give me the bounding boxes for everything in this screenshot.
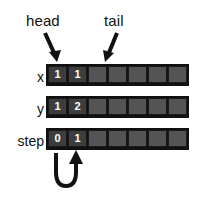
cell-step-0[interactable]: 0 (48, 130, 67, 147)
array-row-step: 0 1 (46, 128, 189, 150)
step-loop-arrow-icon (56, 150, 83, 186)
cell-y-1[interactable]: 2 (68, 98, 87, 115)
cell-y-3[interactable] (108, 98, 127, 115)
cell-y-2[interactable] (88, 98, 107, 115)
annotation-label-head: head (26, 12, 60, 29)
cell-x-2[interactable] (88, 66, 107, 83)
cell-step-4[interactable] (128, 130, 147, 147)
cell-y-0[interactable]: 1 (48, 98, 67, 115)
row-label-y: y (4, 101, 44, 117)
annotation-label-tail: tail (104, 12, 124, 29)
cell-step-5[interactable] (148, 130, 167, 147)
cell-x-3[interactable] (108, 66, 127, 83)
cell-step-2[interactable] (88, 130, 107, 147)
cell-x-0[interactable]: 1 (48, 66, 67, 83)
cell-x-5[interactable] (148, 66, 167, 83)
array-row-x: 1 1 (46, 64, 189, 86)
cell-y-6[interactable] (168, 98, 187, 115)
cell-y-5[interactable] (148, 98, 167, 115)
cell-step-6[interactable] (168, 130, 187, 147)
row-label-step: step (4, 133, 44, 149)
tail-arrow-icon (103, 33, 117, 62)
cell-y-4[interactable] (128, 98, 147, 115)
cell-x-4[interactable] (128, 66, 147, 83)
cell-x-1[interactable]: 1 (68, 66, 87, 83)
cell-step-3[interactable] (108, 130, 127, 147)
queue-array-diagram: head tail x y step 1 1 1 2 0 1 (0, 0, 201, 197)
array-row-y: 1 2 (46, 96, 189, 118)
row-label-x: x (4, 69, 44, 85)
cell-x-6[interactable] (168, 66, 187, 83)
head-arrow-icon (45, 33, 61, 62)
cell-step-1[interactable]: 1 (68, 130, 87, 147)
